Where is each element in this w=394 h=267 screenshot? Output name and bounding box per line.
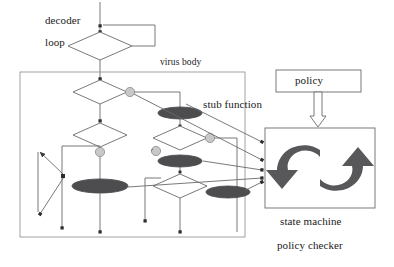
label-policy-checker: policy checker [277,239,343,251]
virus-body-box [20,72,245,237]
label-stub-function: stub function [203,98,262,110]
policy-block-arrow [310,92,326,127]
junction-circle-2 [95,147,104,156]
decision-diamond-1 [73,80,127,104]
label-state-machine: state machine [280,215,341,227]
stub-ellipse-4 [206,186,250,198]
label-virus-body: virus body [160,57,201,67]
junction-circle-4 [151,146,160,155]
diagram-canvas: decoder loop virus body stub function po… [0,0,394,267]
stub-ellipse-3 [72,179,128,193]
decision-diamond-2 [73,123,127,147]
label-decoder: decoder [45,14,81,26]
label-policy: policy [295,74,323,86]
stub-ellipse-2 [158,155,202,167]
label-loop: loop [45,36,65,48]
junction-circle-1 [125,87,134,96]
decoder-loop-group [68,2,155,79]
decision-diamond-3 [153,126,207,150]
decision-diamond-4 [153,174,207,198]
